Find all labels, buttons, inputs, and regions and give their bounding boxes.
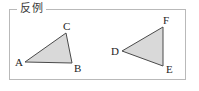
- vertex-label-c: C: [63, 21, 70, 32]
- counterexample-frame: [9, 9, 186, 80]
- vertex-label-f: F: [163, 15, 169, 26]
- vertex-label-a: A: [15, 57, 23, 68]
- vertex-label-d: D: [111, 46, 119, 57]
- vertex-label-e: E: [166, 64, 173, 75]
- frame-legend-label: 反例: [17, 2, 46, 15]
- figure-root: 反例 A B C D E F: [0, 0, 199, 91]
- vertex-label-b: B: [74, 63, 81, 74]
